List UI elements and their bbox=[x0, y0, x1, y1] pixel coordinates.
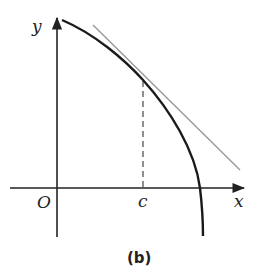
diagram: y x O c (b) bbox=[0, 0, 260, 271]
origin-label: O bbox=[37, 192, 51, 212]
point-c-label: c bbox=[138, 191, 148, 211]
figure-caption: (b) bbox=[127, 249, 151, 267]
x-axis-label: x bbox=[234, 191, 244, 211]
curve bbox=[62, 20, 203, 236]
y-axis-label: y bbox=[31, 16, 42, 36]
tangent-line bbox=[93, 25, 240, 170]
